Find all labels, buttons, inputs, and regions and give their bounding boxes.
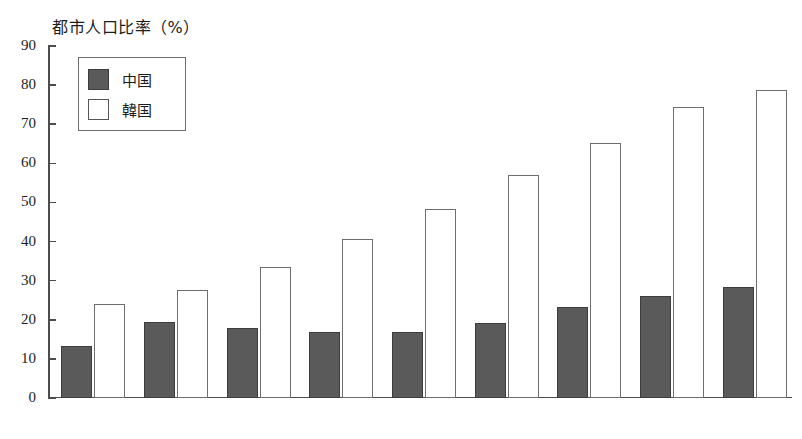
legend-item-korea: 韓国 <box>88 98 152 120</box>
bar-group-1990 <box>640 46 704 398</box>
legend-item-china: 中国 <box>88 68 152 90</box>
bar-korea-1980 <box>508 175 539 398</box>
bar-group-1985 <box>557 46 621 398</box>
legend-swatch-china <box>88 69 109 90</box>
y-tick-label-0: 0 <box>6 390 36 405</box>
y-tick-label-90: 90 <box>6 38 36 53</box>
y-tick-label-10: 10 <box>6 351 36 366</box>
bar-korea-1955 <box>94 304 125 398</box>
chart-legend: 中国 韓国 <box>78 57 186 131</box>
bar-chart: 都市人口比率（%） 195519601965197019751980198519… <box>0 0 802 439</box>
bar-china-1985 <box>557 307 588 398</box>
bar-china-1960 <box>144 322 175 398</box>
bar-china-1970 <box>309 332 340 398</box>
bar-group-1965 <box>227 46 291 398</box>
bar-korea-1960 <box>177 290 208 398</box>
y-tick-label-20: 20 <box>6 312 36 327</box>
chart-title: 都市人口比率（%） <box>52 14 200 38</box>
bar-china-1980 <box>475 323 506 398</box>
bar-group-1995 <box>723 46 787 398</box>
y-tick-label-40: 40 <box>6 234 36 249</box>
bar-group-1975 <box>392 46 456 398</box>
bar-korea-1965 <box>260 267 291 398</box>
bar-group-1980 <box>475 46 539 398</box>
bar-korea-1995 <box>756 90 787 398</box>
legend-swatch-korea <box>88 99 109 120</box>
y-tick-label-30: 30 <box>6 273 36 288</box>
bar-china-1965 <box>227 328 258 398</box>
bar-group-1970 <box>309 46 373 398</box>
legend-label-china: 中国 <box>122 69 152 90</box>
bar-china-1990 <box>640 296 671 398</box>
bar-korea-1985 <box>590 143 621 398</box>
legend-label-korea: 韓国 <box>122 99 152 120</box>
bar-china-1955 <box>61 346 92 398</box>
bar-china-1975 <box>392 332 423 398</box>
bar-korea-1990 <box>673 107 704 398</box>
y-tick-label-70: 70 <box>6 116 36 131</box>
bar-korea-1975 <box>425 209 456 398</box>
y-tick-label-80: 80 <box>6 77 36 92</box>
y-tick-label-60: 60 <box>6 155 36 170</box>
bar-china-1995 <box>723 287 754 398</box>
y-tick-label-50: 50 <box>6 194 36 209</box>
bar-korea-1970 <box>342 239 373 398</box>
